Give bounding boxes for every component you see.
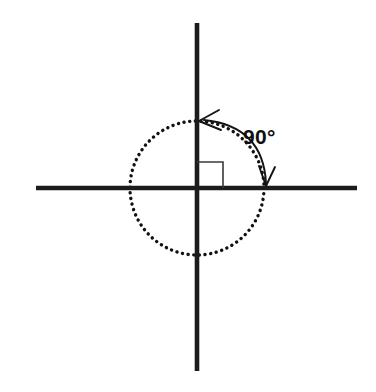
geometry-diagram-canvas: 90°	[0, 0, 376, 392]
angle-measure-label: 90°	[243, 125, 276, 148]
arc-arrowhead-down-icon	[259, 166, 275, 186]
right-angle-square-icon	[197, 162, 223, 188]
angle-diagram-svg: 90°	[0, 0, 376, 392]
